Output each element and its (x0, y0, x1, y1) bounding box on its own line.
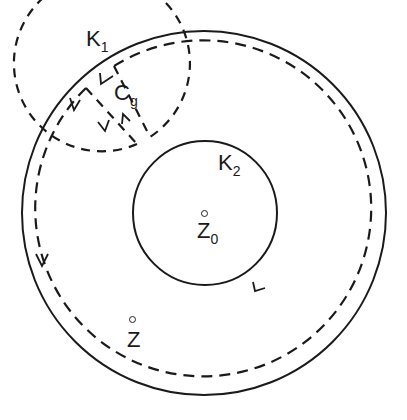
label-k2: K2 (218, 152, 240, 178)
label-z: Z (127, 329, 140, 351)
point-z-marker (129, 316, 136, 323)
label-cg: Cg (114, 82, 138, 108)
label-z0: Z0 (197, 220, 218, 246)
arrow-icon (100, 73, 113, 84)
arrow-icon (122, 114, 130, 124)
contour-outer-dashed-arc (35, 40, 371, 376)
label-k1: K1 (86, 28, 108, 54)
arrow-icon (98, 120, 109, 131)
arrow-icon (70, 98, 80, 110)
contour-inner-dashed-arc (14, 0, 190, 151)
arrow-icon (253, 282, 265, 291)
point-z0-marker (201, 210, 208, 217)
